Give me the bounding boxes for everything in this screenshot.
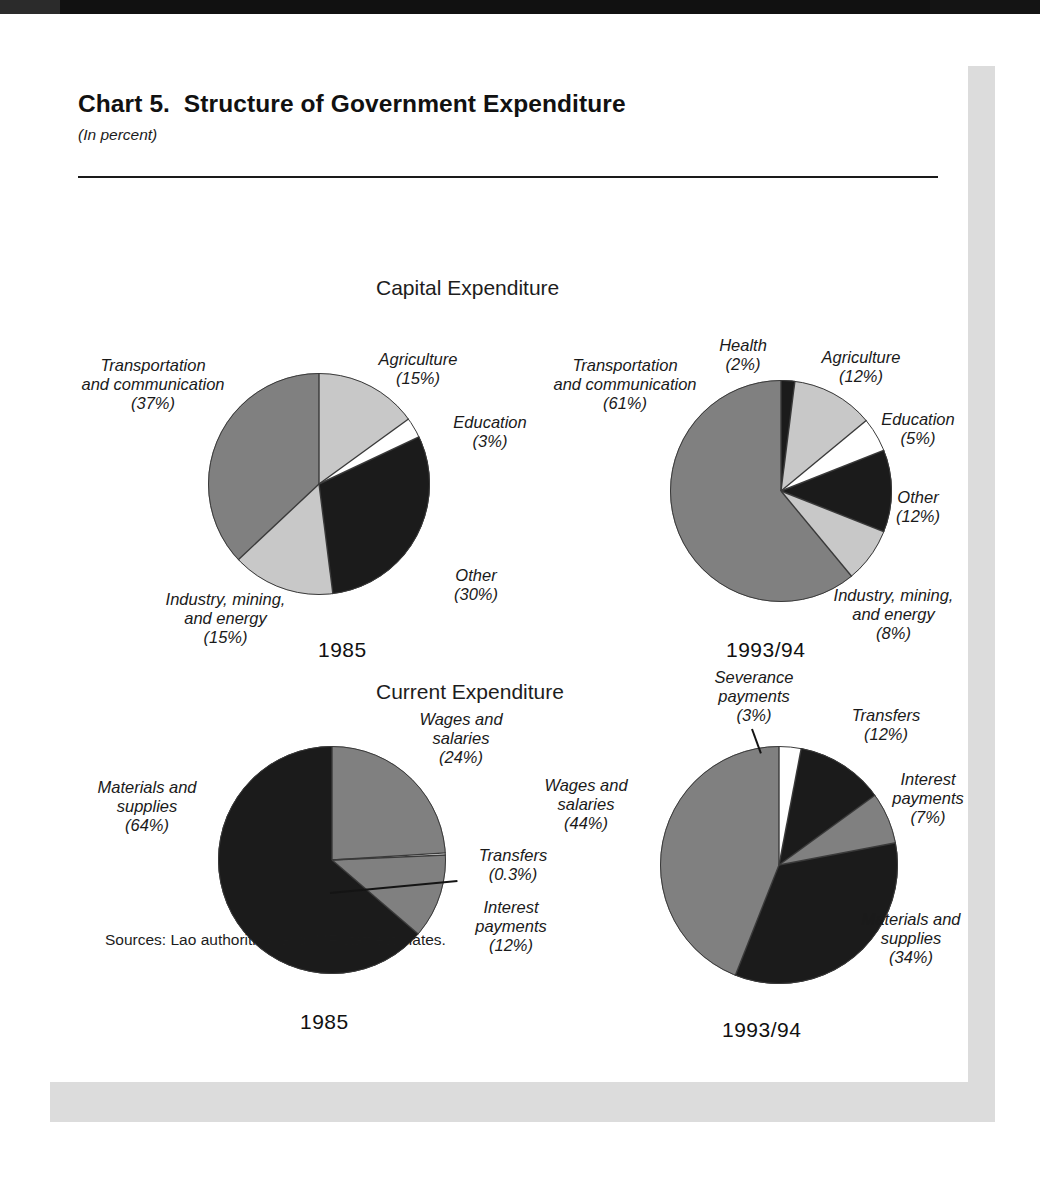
- label-capital-1985-education: Education (3%): [430, 413, 550, 451]
- label-current-1985-interest: Interest payments (12%): [456, 898, 566, 955]
- label-current-1993-materials: Materials and supplies (34%): [838, 910, 984, 967]
- chart-plate: Chart 5. Structure of Government Expendi…: [50, 66, 968, 1082]
- label-capital-1993-industry: Industry, mining, and energy (8%): [806, 586, 981, 643]
- page-panel: Chart 5. Structure of Government Expendi…: [50, 66, 995, 1122]
- page-title: Chart 5. Structure of Government Expendi…: [78, 90, 938, 118]
- label-current-1993-severance: Severance payments (3%): [690, 668, 818, 725]
- year-label-current-1985: 1985: [300, 1010, 349, 1034]
- section-heading-current: Current Expenditure: [376, 680, 564, 704]
- label-capital-1993-education: Education (5%): [858, 410, 978, 448]
- year-label-capital-1993: 1993/94: [726, 638, 805, 662]
- label-capital-1993-agriculture: Agriculture (12%): [796, 348, 926, 386]
- label-capital-1993-other: Other (12%): [868, 488, 968, 526]
- label-capital-1985-transportation: Transportation and communication (37%): [58, 356, 248, 413]
- label-current-1993-interest: Interest payments (7%): [868, 770, 988, 827]
- chart-subtitle: (In percent): [78, 126, 938, 144]
- label-capital-1985-agriculture: Agriculture (15%): [353, 350, 483, 388]
- top-band-segment-left: [0, 0, 60, 14]
- year-label-current-1993: 1993/94: [722, 1018, 801, 1042]
- header-divider: [78, 176, 938, 178]
- label-current-1985-wages: Wages and salaries (24%): [396, 710, 526, 767]
- label-current-1985-materials: Materials and supplies (64%): [72, 778, 222, 835]
- top-band-segment-right: [930, 0, 1040, 14]
- label-current-1993-wages: Wages and salaries (44%): [518, 776, 654, 833]
- label-capital-1993-health: Health (2%): [698, 336, 788, 374]
- year-label-capital-1985: 1985: [318, 638, 367, 662]
- label-current-1985-transfers: Transfers (0.3%): [458, 846, 568, 884]
- chart-header: Chart 5. Structure of Government Expendi…: [78, 90, 938, 144]
- page-top-band: [0, 0, 1040, 14]
- section-heading-capital: Capital Expenditure: [376, 276, 559, 300]
- source-note: Sources: Lao authorities; and IMF staff …: [105, 931, 446, 949]
- label-current-1993-transfers: Transfers (12%): [826, 706, 946, 744]
- label-capital-1993-transportation: Transportation and communication (61%): [530, 356, 720, 413]
- chart-canvas: Capital Expenditure Transportation and c…: [78, 198, 938, 1053]
- label-capital-1985-other: Other (30%): [426, 566, 526, 604]
- label-capital-1985-industry: Industry, mining, and energy (15%): [138, 590, 313, 647]
